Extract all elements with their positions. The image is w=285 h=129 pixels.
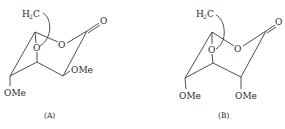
bond-c3-c2	[213, 63, 241, 77]
bridge-c-label: C	[207, 9, 214, 19]
bond-ringo-c3	[212, 54, 213, 63]
bond-c3-c2	[37, 62, 63, 76]
bond-c5-lactoneo	[212, 32, 234, 46]
caption-a: (A)	[44, 111, 55, 120]
ome-right-label: OMe	[71, 65, 93, 75]
bridge-arc	[40, 13, 50, 46]
lactone-o-label: O	[234, 44, 241, 54]
bond-lactoneo-carbonyl	[243, 31, 266, 46]
ring-o-label: O	[33, 43, 40, 53]
bridge-arc	[216, 15, 224, 49]
lactone-o-label: O	[58, 40, 65, 50]
bond-c4-ome	[185, 78, 186, 89]
chemical-structures-figure: H 2 C O O O OMe OMe (A) H 2 C O O O OMe …	[0, 0, 285, 129]
carbonyl-o-label: O	[100, 16, 107, 26]
caption-b: (B)	[218, 111, 229, 120]
bond-carbonyl-double-2	[267, 27, 276, 33]
ome-left-label: OMe	[179, 91, 201, 101]
bond-c2-carbonyl	[241, 31, 266, 77]
bond-carbonyl-double-1	[266, 25, 275, 31]
bridge-c-label: C	[33, 9, 40, 19]
carbonyl-o-label: O	[275, 17, 282, 27]
ome-bottom-label: OMe	[4, 88, 26, 98]
ome-right-label: OMe	[235, 91, 257, 101]
bond-c5-ringo	[35, 32, 36, 43]
structure-b: H 2 C O O O OMe OMe (B)	[179, 9, 282, 120]
ring-o-label: O	[208, 45, 215, 55]
structure-a: H 2 C O O O OMe OMe (A)	[4, 9, 107, 120]
